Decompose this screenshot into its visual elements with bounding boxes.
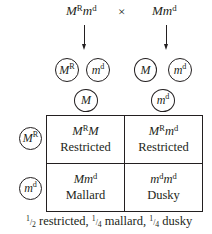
parent2-genotype: Mmd bbox=[152, 3, 177, 19]
parent1-allele2-sup: d bbox=[92, 3, 96, 13]
punnett-cell-r1c2: MRmd Restricted bbox=[125, 116, 202, 163]
genotype-allele: M bbox=[149, 124, 159, 138]
ratio-label: restricted, bbox=[36, 214, 89, 228]
parent1-genotype: MRmd bbox=[66, 3, 97, 19]
punnett-cell-r1c1: MRM Restricted bbox=[47, 116, 124, 163]
parent1-allele1: M bbox=[66, 3, 77, 18]
fraction: 1/4 bbox=[149, 214, 159, 229]
genotype-allele: m bbox=[150, 172, 159, 186]
gamete-allele-sup: d bbox=[182, 62, 186, 71]
genotype-allele: m bbox=[165, 124, 174, 138]
phenotype-ratio-summary: 1/2 restricted, 1/4 mallard, 1/4 dusky bbox=[26, 214, 192, 229]
column-header-md: md bbox=[151, 89, 175, 112]
parent2-alleles: Mm bbox=[152, 3, 172, 18]
fraction-denominator: 2 bbox=[32, 220, 36, 229]
row-header-MR: MR bbox=[19, 127, 42, 150]
gamete-allele-sup: d bbox=[100, 62, 104, 71]
genotype-allele: m bbox=[164, 172, 173, 186]
gamete-allele-sup: R bbox=[69, 62, 74, 71]
column-header-allele: m bbox=[157, 93, 166, 108]
fraction-denominator: 4 bbox=[155, 220, 159, 229]
genotype-allele-sup: d bbox=[93, 171, 97, 181]
parent1-allele1-sup: R bbox=[77, 3, 83, 13]
cell-genotype: MRmd bbox=[149, 124, 178, 140]
genotype-allele-sup: d bbox=[159, 171, 163, 181]
gamete-allele: m bbox=[174, 63, 183, 78]
punnett-square: MRM Restricted MRmd Restricted Mmd Malla… bbox=[46, 115, 203, 212]
gamete-allele: M bbox=[59, 63, 69, 78]
fraction: 1/2 bbox=[26, 214, 36, 229]
fraction-numerator: 1 bbox=[92, 214, 96, 223]
punnett-cell-r2c1: Mmd Mallard bbox=[47, 164, 124, 211]
cell-genotype: Mmd bbox=[74, 172, 98, 188]
gamete-circle-md: md bbox=[168, 58, 192, 82]
parent1-allele2: m bbox=[83, 3, 92, 18]
fraction-numerator: 1 bbox=[149, 214, 153, 223]
genotype-allele-sup: R bbox=[159, 123, 165, 133]
genotype-allele-sup: d bbox=[174, 123, 178, 133]
row-header-allele: M bbox=[23, 131, 33, 146]
cell-phenotype: Mallard bbox=[66, 188, 106, 203]
fraction-denominator: 4 bbox=[98, 220, 102, 229]
cell-genotype: MRM bbox=[72, 124, 99, 140]
ratio-label: mallard, bbox=[102, 214, 146, 228]
row-header-md: md bbox=[19, 177, 42, 200]
genotype-allele: M bbox=[72, 124, 82, 138]
gamete-allele: m bbox=[92, 63, 101, 78]
gamete-circle-M: M bbox=[134, 58, 157, 82]
genotype-allele: Mm bbox=[74, 172, 93, 186]
row-header-allele-sup: R bbox=[33, 130, 38, 139]
gamete-circle-md: md bbox=[86, 58, 110, 82]
genotype-allele-sup: R bbox=[83, 123, 89, 133]
genotype-allele-sup: d bbox=[173, 171, 177, 181]
row-header-allele: m bbox=[24, 181, 33, 196]
fraction: 1/4 bbox=[92, 214, 102, 229]
gamete-allele: M bbox=[141, 63, 151, 78]
cell-genotype: mdmd bbox=[150, 172, 177, 188]
cross-operator: × bbox=[118, 4, 125, 20]
ratio-label: dusky bbox=[159, 214, 192, 228]
column-header-M: M bbox=[74, 89, 98, 112]
fraction-numerator: 1 bbox=[26, 214, 30, 223]
parent2-allele-sup: d bbox=[172, 3, 176, 13]
cell-phenotype: Dusky bbox=[147, 188, 180, 203]
cell-phenotype: Restricted bbox=[138, 140, 189, 155]
column-header-allele: M bbox=[81, 93, 91, 108]
gamete-circle-MR: MR bbox=[55, 58, 79, 82]
genotype-allele: M bbox=[88, 124, 98, 138]
cell-phenotype: Restricted bbox=[60, 140, 111, 155]
punnett-cell-r2c2: mdmd Dusky bbox=[125, 164, 202, 211]
column-header-allele-sup: d bbox=[165, 92, 169, 101]
row-header-allele-sup: d bbox=[33, 180, 37, 189]
